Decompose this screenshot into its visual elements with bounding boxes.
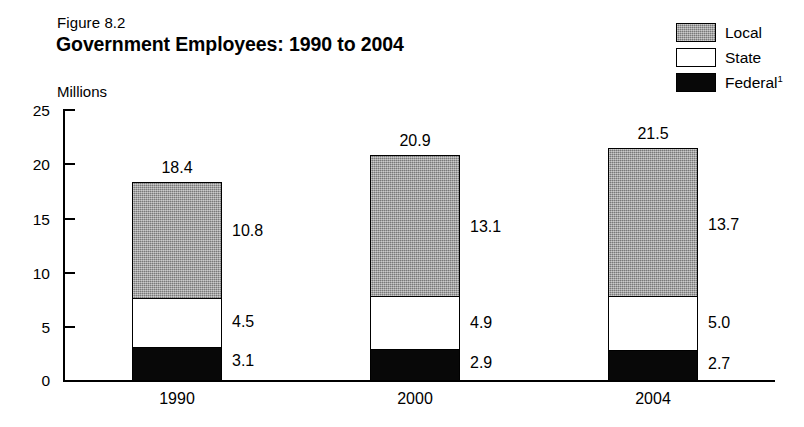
x-axis-label-2004: 2004 [608,389,698,408]
y-axis-label-0: 0 [20,373,50,389]
bar-value-federal-1990: 3.1 [232,352,282,370]
bar-segment-local-2000[interactable] [370,155,460,297]
bar-value-state-2004: 5.0 [708,314,758,332]
bar-value-local-1990: 10.8 [232,222,282,240]
y-tick-20 [63,163,75,165]
y-tick-15 [63,218,75,220]
bar-segment-state-2000[interactable] [370,296,460,350]
bar-value-local-2000: 13.1 [470,218,520,236]
figure-container: Figure 8.2 Government Employees: 1990 to… [0,0,804,427]
bar-value-state-1990: 4.5 [232,313,282,331]
bar-value-federal-2004: 2.7 [708,355,758,373]
bar-segment-federal-1990[interactable] [132,347,222,381]
bar-total-label-1990: 18.4 [132,159,222,177]
bar-segment-state-1990[interactable] [132,298,222,348]
bar-segment-local-2004[interactable] [608,148,698,297]
bar-segment-state-2004[interactable] [608,296,698,351]
y-axis-label-15: 15 [20,212,50,228]
x-axis-label-2000: 2000 [370,389,460,408]
y-axis-label-10: 10 [20,266,50,282]
bar-total-label-2000: 20.9 [370,132,460,150]
bar-value-federal-2000: 2.9 [470,354,520,372]
bar-segment-federal-2000[interactable] [370,349,460,381]
bar-value-local-2004: 13.7 [708,216,758,234]
y-tick-10 [63,272,75,274]
bar-value-state-2000: 4.9 [470,314,520,332]
y-tick-25 [63,109,75,111]
bar-total-label-2004: 21.5 [608,125,698,143]
plot-area: 25 20 15 10 5 0 18.4 10.8 4.5 3.1 1990 2 [0,0,804,427]
y-axis-label-20: 20 [20,157,50,173]
y-axis-label-5: 5 [20,320,50,336]
y-axis-line [63,110,65,381]
bar-segment-local-1990[interactable] [132,182,222,300]
bar-segment-federal-2004[interactable] [608,350,698,381]
y-axis-label-25: 25 [20,103,50,119]
y-tick-5 [63,326,75,328]
x-axis-label-1990: 1990 [132,389,222,408]
